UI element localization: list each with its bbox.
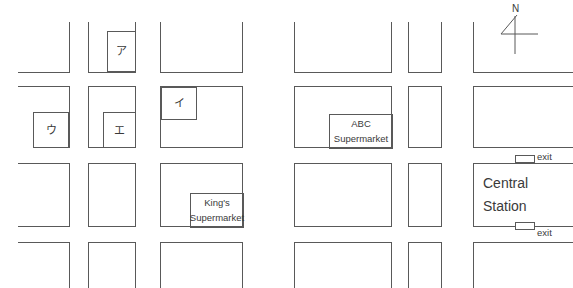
landmark-abc-supermarket: ABC Supermarket: [329, 114, 393, 149]
compass-rose: N: [498, 4, 546, 58]
kings-supermarket-line2: Supermarket: [190, 211, 244, 226]
street-map: ア ウ エ イ ABC Supermarket King's Supe: [0, 0, 573, 288]
city-block-col2-row1: ア: [88, 22, 136, 73]
city-block-col2-row3: [88, 163, 136, 227]
compass-needle-icon: [498, 4, 546, 58]
city-block-col1-row4: [18, 242, 70, 288]
compass-north-label: N: [512, 4, 519, 14]
parcel-a: ア: [107, 31, 136, 72]
city-block-col4-row2: ABC Supermarket: [294, 86, 392, 148]
abc-supermarket-line1: ABC: [351, 117, 371, 132]
city-block-col1-row1: [18, 22, 70, 73]
city-block-col5-row1: [408, 22, 442, 73]
city-block-col1-row2: ウ: [18, 86, 70, 148]
parcel-u: ウ: [33, 112, 69, 148]
city-block-col3-row2: イ: [160, 86, 243, 148]
city-block-col4-row1: [294, 22, 392, 73]
city-block-col2-row2: エ: [88, 86, 136, 148]
landmark-kings-supermarket: King's Supermarket: [190, 193, 244, 228]
exit-south-label: exit: [537, 228, 552, 238]
city-block-col4-row4: [294, 242, 392, 288]
city-block-col1-row3: [18, 163, 70, 227]
kings-supermarket-line1: King's: [204, 196, 230, 211]
city-block-col3-row3: King's Supermarket: [160, 163, 243, 227]
city-block-col6-row4: [473, 242, 573, 288]
city-block-col4-row3: [294, 163, 392, 227]
city-block-col5-row3: [408, 163, 442, 227]
parcel-u-label: ウ: [46, 125, 57, 136]
city-block-col5-row4: [408, 242, 442, 288]
parcel-e: エ: [103, 112, 136, 148]
parcel-i: イ: [161, 87, 197, 120]
central-station-line2: Station: [483, 195, 573, 218]
abc-supermarket-line2: Supermarket: [334, 132, 388, 147]
station-exit-north: exit: [473, 152, 573, 166]
city-block-col3-row1: [160, 22, 243, 73]
central-station-line1: Central: [483, 172, 573, 195]
city-block-col2-row4: [88, 242, 136, 288]
parcel-i-label: イ: [174, 98, 185, 109]
exit-south-marker: [515, 222, 535, 230]
exit-north-label: exit: [537, 152, 552, 162]
city-block-col3-row4: [160, 242, 243, 288]
landmark-central-station: Central Station: [473, 163, 573, 227]
exit-north-marker: [515, 155, 535, 163]
parcel-a-label: ア: [116, 46, 127, 57]
parcel-e-label: エ: [114, 125, 125, 136]
city-block-col5-row2: [408, 86, 442, 148]
station-exit-south: exit: [473, 222, 573, 238]
city-block-col6-row2: [473, 86, 573, 148]
